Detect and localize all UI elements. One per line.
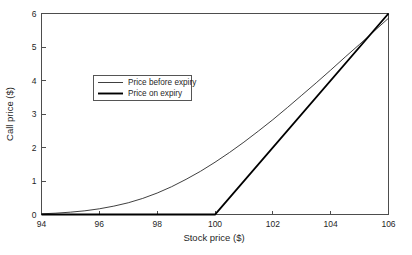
x-axis-tick-labels: 949698100102104106 [37,219,396,229]
y-tick-label: 2 [32,143,37,153]
y-tick-label: 0 [32,210,37,220]
y-axis-title: Call price ($) [4,87,15,141]
y-tick-label: 4 [32,76,37,86]
x-tick-label: 100 [208,219,222,229]
x-tick-label: 102 [266,219,280,229]
y-tick-label: 1 [32,176,37,186]
y-axis-tick-labels: 0123456 [32,9,37,220]
x-tick-label: 104 [324,219,338,229]
x-tick-label: 96 [95,219,105,229]
legend-label-price-on-expiry: Price on expiry [128,89,183,98]
legend-label-price-before-expiry: Price before expiry [128,78,197,87]
plot-frame [42,14,389,215]
y-axis-ticks [42,14,46,215]
x-tick-label: 98 [152,219,162,229]
x-tick-label: 106 [381,219,395,229]
y-tick-label: 5 [32,42,37,52]
y-tick-label: 6 [32,9,37,19]
series-price-on-expiry [42,14,389,215]
x-axis-title: Stock price ($) [183,232,244,243]
y-tick-label: 3 [32,109,37,119]
x-tick-label: 94 [37,219,47,229]
chart-canvas: 949698100102104106 0123456 Stock price (… [0,0,412,255]
chart-legend: Price before expiry Price on expiry [94,76,198,101]
call-option-price-chart: 949698100102104106 0123456 Stock price (… [0,0,412,255]
series-price-before-expiry [42,18,389,214]
